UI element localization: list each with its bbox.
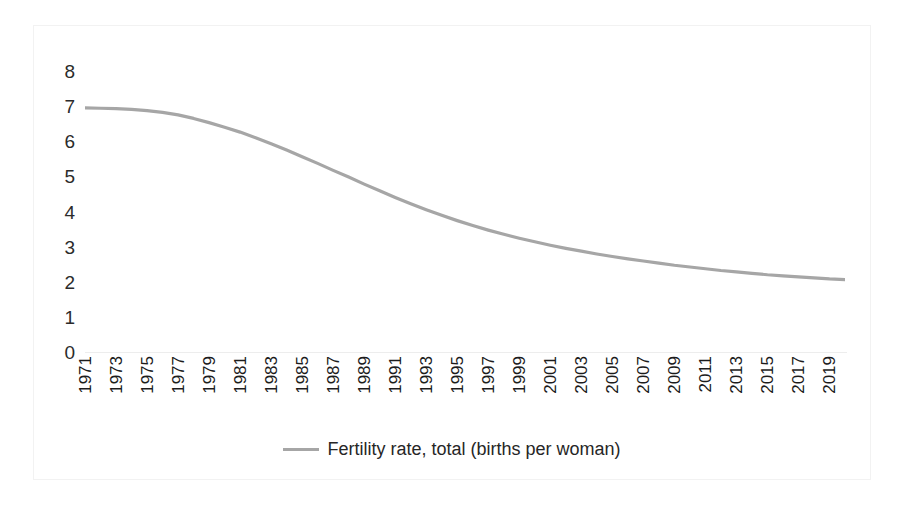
- x-tick-label-text: 1983: [263, 356, 280, 394]
- x-tick-label: 2001: [543, 356, 557, 428]
- legend-line-swatch-icon: [283, 448, 319, 451]
- x-tick-label-text: 1975: [139, 356, 156, 394]
- x-tick-label: 2013: [729, 356, 743, 428]
- y-tick-label: 1: [45, 307, 75, 326]
- x-tick-label: 1987: [326, 356, 340, 428]
- x-tick-label: 1971: [78, 356, 92, 428]
- x-tick-label: 2007: [636, 356, 650, 428]
- x-tick-label: 1993: [419, 356, 433, 428]
- x-tick-label: 1975: [140, 356, 154, 428]
- x-tick-label: 1989: [357, 356, 371, 428]
- legend-label: Fertility rate, total (births per woman): [327, 440, 620, 458]
- x-tick-label-text: 2013: [728, 356, 745, 394]
- x-tick-label: 1977: [171, 356, 185, 428]
- x-tick-label-text: 1987: [325, 356, 342, 394]
- x-tick-label-text: 1999: [511, 356, 528, 394]
- x-tick-label: 1999: [512, 356, 526, 428]
- chart-legend: Fertility rate, total (births per woman): [33, 440, 871, 458]
- x-tick-label-text: 2017: [790, 356, 807, 394]
- x-tick-label-text: 1989: [356, 356, 373, 394]
- x-tick-label-text: 1977: [170, 356, 187, 394]
- x-tick-label: 2019: [822, 356, 836, 428]
- y-tick-label: 2: [45, 272, 75, 291]
- plot-area: [85, 62, 845, 352]
- x-tick-label: 1985: [295, 356, 309, 428]
- x-tick-label-text: 1971: [77, 356, 94, 394]
- line-chart-svg: [85, 62, 845, 352]
- x-tick-label: 2015: [760, 356, 774, 428]
- x-axis-line: [85, 352, 847, 353]
- chart-page: 876543210 197119731975197719791981198319…: [0, 0, 909, 512]
- y-tick-label: 0: [45, 343, 75, 362]
- fertility-rate-line: [85, 108, 845, 280]
- x-tick-label: 2005: [605, 356, 619, 428]
- x-tick-label-text: 1997: [480, 356, 497, 394]
- x-tick-label-text: 2015: [759, 356, 776, 394]
- x-tick-label: 1973: [109, 356, 123, 428]
- x-tick-label-text: 1993: [418, 356, 435, 394]
- x-tick-label-text: 2019: [821, 356, 838, 394]
- x-tick-label-text: 2003: [573, 356, 590, 394]
- x-tick-label: 2017: [791, 356, 805, 428]
- x-tick-label: 1983: [264, 356, 278, 428]
- y-tick-label: 7: [45, 97, 75, 116]
- x-tick-label-text: 1973: [108, 356, 125, 394]
- x-tick-label-text: 1995: [449, 356, 466, 394]
- x-tick-label-text: 2007: [635, 356, 652, 394]
- x-tick-label: 2003: [574, 356, 588, 428]
- x-tick-label-text: 1991: [387, 356, 404, 394]
- x-tick-label: 1981: [233, 356, 247, 428]
- y-tick-label: 4: [45, 202, 75, 221]
- y-tick-label: 3: [45, 237, 75, 256]
- x-axis-labels: 1971197319751977197919811983198519871989…: [85, 356, 845, 434]
- x-tick-label: 1995: [450, 356, 464, 428]
- x-tick-label-text: 2001: [542, 356, 559, 394]
- y-tick-label: 8: [45, 62, 75, 81]
- x-tick-label-text: 2005: [604, 356, 621, 394]
- x-tick-label-text: 2009: [666, 356, 683, 394]
- x-tick-label: 1979: [202, 356, 216, 428]
- x-tick-label: 1997: [481, 356, 495, 428]
- x-tick-label: 1991: [388, 356, 402, 428]
- y-tick-label: 6: [45, 132, 75, 151]
- x-tick-label: 2009: [667, 356, 681, 428]
- x-tick-label-text: 2011: [697, 356, 714, 393]
- y-tick-label: 5: [45, 167, 75, 186]
- x-tick-label-text: 1981: [232, 356, 249, 394]
- x-tick-label-text: 1979: [201, 356, 218, 394]
- x-tick-label-text: 1985: [294, 356, 311, 394]
- x-tick-label: 2011: [698, 356, 712, 428]
